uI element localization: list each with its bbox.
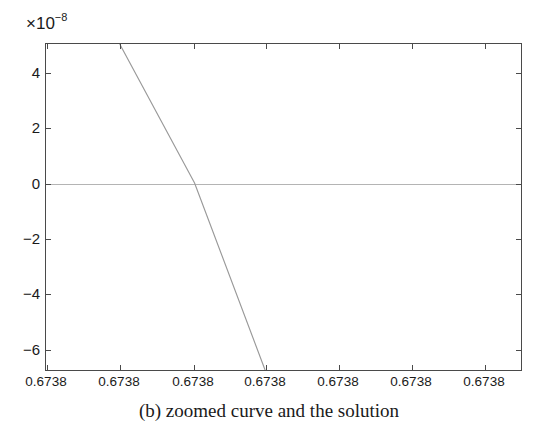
y-tick-label: 0 [32,174,40,191]
y-tick-label: 2 [32,119,40,136]
y-tick-label: −4 [23,285,40,302]
y-tick-left [46,239,51,240]
x-tick-bottom [47,365,48,370]
x-tick-label: 0.6738 [390,374,431,389]
y-tick-left [46,294,51,295]
y-tick-right [516,294,521,295]
y-tick-right [516,239,521,240]
x-tick-top [120,44,121,49]
x-tick-top [194,44,195,49]
x-tick-top [47,44,48,49]
x-tick-bottom [412,365,413,370]
y-tick-left [46,184,51,185]
x-tick-bottom [485,365,486,370]
y-tick-label: 4 [32,64,40,81]
x-tick-label: 0.6738 [463,374,504,389]
y-tick-left [46,350,51,351]
x-tick-top [412,44,413,49]
x-tick-top [339,44,340,49]
x-tick-top [485,44,486,49]
y-tick-label: −6 [23,340,40,357]
x-tick-bottom [194,365,195,370]
x-tick-label: 0.6738 [98,374,139,389]
y-tick-right [516,184,521,185]
x-tick-bottom [266,365,267,370]
figure-caption: (b) zoomed curve and the solution [0,400,538,422]
y-tick-right [516,128,521,129]
exponent-prefix: ×10 [26,14,55,33]
y-axis-exponent-label: ×10−8 [26,12,67,34]
data-curve-svg [46,44,521,370]
x-tick-label: 0.6738 [317,374,358,389]
y-tick-right [516,73,521,74]
x-tick-bottom [120,365,121,370]
figure-panel: ×10−8 0.67380.67380.67380.67380.67380.67… [0,0,538,445]
x-tick-bottom [339,365,340,370]
x-tick-top [266,44,267,49]
data-curve-line [120,44,265,370]
y-tick-left [46,128,51,129]
x-tick-label: 0.6738 [25,374,66,389]
plot-inner [46,44,521,370]
x-tick-label: 0.6738 [244,374,285,389]
exponent-power: −8 [55,11,68,23]
plot-area [45,43,522,371]
y-tick-right [516,350,521,351]
y-tick-left [46,73,51,74]
x-tick-label: 0.6738 [172,374,213,389]
y-tick-label: −2 [23,230,40,247]
